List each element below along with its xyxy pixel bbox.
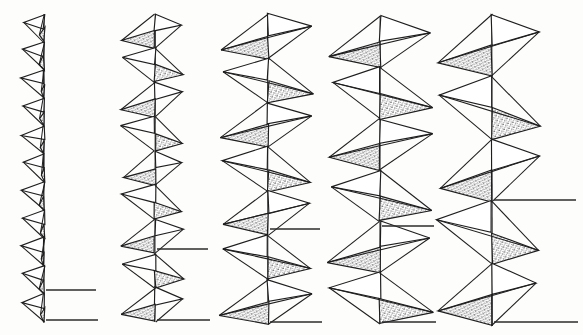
triangle-stippled xyxy=(327,247,380,273)
column-4 xyxy=(327,16,436,324)
triangle-open xyxy=(21,70,44,83)
triangle-open xyxy=(333,67,380,94)
triangle-open xyxy=(21,237,44,252)
figure-canvas xyxy=(0,0,583,335)
triangle-stippled xyxy=(223,213,268,234)
triangle-stippled xyxy=(121,99,155,117)
triangle-stippled xyxy=(154,64,183,81)
triangle-open xyxy=(155,151,181,167)
triangle-open xyxy=(379,16,430,42)
triangle-open xyxy=(491,139,539,170)
triangle-stippled xyxy=(156,134,183,151)
triangle-open xyxy=(22,266,44,281)
triangle-sequence-figure xyxy=(0,0,583,335)
triangle-open xyxy=(329,272,381,299)
triangle-stippled xyxy=(438,295,492,326)
triangle-stippled xyxy=(121,304,155,321)
triangle-open xyxy=(22,293,44,308)
drawing-layer xyxy=(21,13,578,326)
column-3 xyxy=(219,13,322,324)
triangle-open xyxy=(439,76,492,108)
triangle-open xyxy=(22,210,44,225)
triangle-open xyxy=(122,48,156,65)
triangle-open xyxy=(121,116,155,133)
column-1 xyxy=(21,14,98,323)
triangle-open xyxy=(22,42,44,57)
column-5 xyxy=(437,14,578,326)
triangle-stippled xyxy=(121,236,154,253)
triangle-open xyxy=(121,184,156,203)
triangle-stippled xyxy=(154,271,184,288)
triangle-stippled xyxy=(122,31,155,49)
triangle-stippled xyxy=(123,169,155,186)
triangle-stippled xyxy=(380,94,433,120)
column-2 xyxy=(121,14,210,322)
triangle-open xyxy=(154,82,182,99)
triangle-open xyxy=(268,190,310,213)
triangle-stippled xyxy=(154,202,181,219)
triangle-open xyxy=(491,14,539,45)
